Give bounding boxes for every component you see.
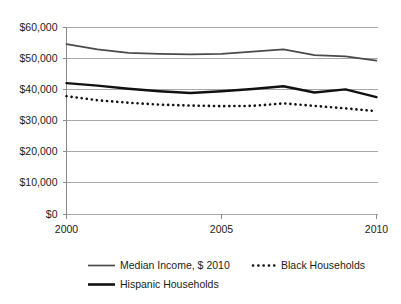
y-axis-tick-label: $60,000 [20, 21, 58, 33]
series-line-black-households [67, 96, 377, 111]
y-axis-labels: $0$10,000$20,000$30,000$40,000$50,000$60… [20, 21, 58, 220]
y-axis-tick-label: $50,000 [20, 52, 58, 64]
y-axis-tick-label: $30,000 [20, 114, 58, 126]
y-axis-tick-label: $0 [46, 208, 58, 220]
y-axis-tick-label: $10,000 [20, 176, 58, 188]
y-axis-tick-marks [63, 27, 67, 214]
chart-legend: Median Income, $ 2010 Black Households H… [88, 259, 365, 290]
y-axis-tick-label: $20,000 [20, 145, 58, 157]
chart-container: $0$10,000$20,000$30,000$40,000$50,000$60… [0, 0, 401, 304]
legend-label-black-households: Black Households [281, 259, 365, 271]
x-axis-tick-marks [67, 214, 377, 219]
y-axis-tick-label: $40,000 [20, 83, 58, 95]
x-axis-tick-label: 2005 [210, 223, 234, 235]
x-axis-tick-label: 2000 [55, 223, 79, 235]
line-chart: $0$10,000$20,000$30,000$40,000$50,000$60… [0, 0, 401, 304]
legend-label-hispanic-households: Hispanic Households [120, 278, 219, 290]
series-line-hispanic-households [67, 83, 377, 97]
legend-label-median-income: Median Income, $ 2010 [120, 259, 230, 271]
x-axis-tick-label: 2010 [365, 223, 389, 235]
x-axis-labels: 200020052010 [55, 223, 389, 235]
